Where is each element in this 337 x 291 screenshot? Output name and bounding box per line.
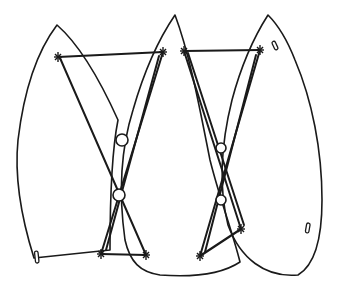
left-panel-outline	[17, 25, 118, 258]
upper-left-ring	[116, 134, 128, 146]
top-left-bar	[58, 52, 163, 57]
right-panel-top-slot	[271, 41, 278, 51]
lower-right-ring	[216, 195, 226, 205]
right-panel-bottom-slot	[305, 223, 310, 233]
lower-left-ring	[113, 189, 125, 201]
right-panel-outline	[222, 15, 322, 275]
bottom-left-bar	[101, 254, 146, 255]
strut-right-a	[184, 51, 241, 229]
strut-right-d	[205, 55, 256, 252]
pivot-joint-icons	[54, 45, 264, 261]
left-panel-slot	[34, 251, 39, 263]
upper-right-ring	[216, 143, 226, 153]
sail-panel-diagram	[0, 0, 337, 291]
top-right-bar	[184, 50, 260, 51]
